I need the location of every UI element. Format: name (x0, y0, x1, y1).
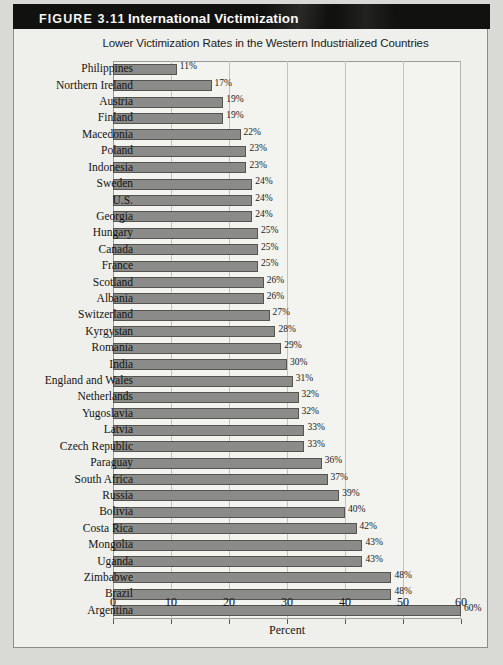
bar (113, 392, 299, 403)
value-label: 32% (302, 389, 319, 399)
category-label: England and Wales (0, 374, 133, 386)
value-label: 11% (180, 61, 197, 71)
category-label: Austria (0, 95, 133, 107)
value-label: 36% (325, 455, 342, 465)
category-label: Costa Rica (0, 522, 133, 534)
gridline (403, 61, 404, 619)
category-label: Hungary (0, 226, 133, 238)
figure-title: International Victimization (128, 11, 298, 26)
value-label: 23% (249, 160, 266, 170)
bar (113, 359, 287, 370)
category-label: Sweden (0, 177, 133, 189)
bar (113, 228, 258, 239)
bar (113, 326, 275, 337)
value-label: 25% (261, 225, 278, 235)
bar (113, 556, 362, 567)
value-label: 31% (296, 373, 313, 383)
bar (113, 507, 345, 518)
bar (113, 425, 304, 436)
x-tick-mark (461, 619, 462, 624)
x-tick-label: 40 (339, 595, 351, 610)
x-tick-label: 30 (281, 595, 293, 610)
bar (113, 376, 293, 387)
value-label: 48% (394, 570, 411, 580)
bar (113, 146, 246, 157)
category-label: Zimbabwe (0, 571, 133, 583)
value-label: 26% (267, 275, 284, 285)
figure-page: FIGURE 3.11 International Victimization … (0, 0, 503, 665)
value-label: 24% (255, 193, 272, 203)
value-label: 40% (348, 504, 365, 514)
category-label: Philippines (0, 62, 133, 74)
category-label: Bolivia (0, 505, 133, 517)
bar (113, 490, 339, 501)
x-tick-label: 0 (110, 595, 116, 610)
gridline (229, 61, 230, 619)
category-label: Yugoslavia (0, 407, 133, 419)
bar (113, 458, 322, 469)
value-label: 23% (249, 143, 266, 153)
value-label: 33% (307, 439, 324, 449)
category-label: India (0, 358, 133, 370)
value-label: 26% (267, 291, 284, 301)
category-label: Canada (0, 243, 133, 255)
value-label: 27% (273, 307, 290, 317)
value-label: 24% (255, 209, 272, 219)
value-label: 33% (307, 422, 324, 432)
bar (113, 343, 281, 354)
x-axis-title: Percent (113, 623, 461, 638)
category-label: Northern Ireland (0, 79, 133, 91)
bar (113, 310, 270, 321)
value-label: 25% (261, 242, 278, 252)
value-label: 28% (278, 324, 295, 334)
bar (113, 474, 328, 485)
figure-header-bar: FIGURE 3.11 International Victimization (13, 4, 490, 29)
bar (113, 211, 252, 222)
chart-subtitle: Lower Victimization Rates in the Western… (14, 37, 487, 49)
value-label: 37% (331, 472, 348, 482)
category-label: Switzerland (0, 308, 133, 320)
bar (113, 441, 304, 452)
category-label: Kyrgystan (0, 325, 133, 337)
category-label: Netherlands (0, 390, 133, 402)
category-label: Albania (0, 292, 133, 304)
category-label: Indonesia (0, 161, 133, 173)
category-label: Czech Republic (0, 440, 133, 452)
value-label: 32% (302, 406, 319, 416)
value-label: 43% (365, 554, 382, 564)
gridline (171, 61, 172, 619)
value-label: 30% (290, 357, 307, 367)
category-label: Uganda (0, 555, 133, 567)
x-tick-label: 50 (397, 595, 409, 610)
bar (113, 195, 252, 206)
value-label: 43% (365, 537, 382, 547)
category-label: Scotland (0, 276, 133, 288)
value-label: 29% (284, 340, 301, 350)
category-label: Finland (0, 111, 133, 123)
category-label: U.S. (0, 194, 133, 206)
category-label: South Africa (0, 473, 133, 485)
bar (113, 540, 362, 551)
value-label: 42% (360, 521, 377, 531)
category-label: Latvia (0, 423, 133, 435)
bar (113, 408, 299, 419)
value-label: 24% (255, 176, 272, 186)
category-label: Mongolia (0, 538, 133, 550)
category-label: Macedonia (0, 128, 133, 140)
category-label: Poland (0, 144, 133, 156)
bar (113, 523, 357, 534)
bar (113, 261, 258, 272)
value-label: 19% (226, 94, 243, 104)
gridline (345, 61, 346, 619)
category-label: Paraguay (0, 456, 133, 468)
category-label: Russia (0, 489, 133, 501)
value-label: 19% (226, 110, 243, 120)
category-label: Georgia (0, 210, 133, 222)
value-label: 25% (261, 258, 278, 268)
value-label: 17% (215, 78, 232, 88)
value-label: 39% (342, 488, 359, 498)
x-tick-label: 20 (223, 595, 235, 610)
x-tick-label: 60 (455, 595, 467, 610)
value-label: 22% (244, 127, 261, 137)
bar (113, 179, 252, 190)
